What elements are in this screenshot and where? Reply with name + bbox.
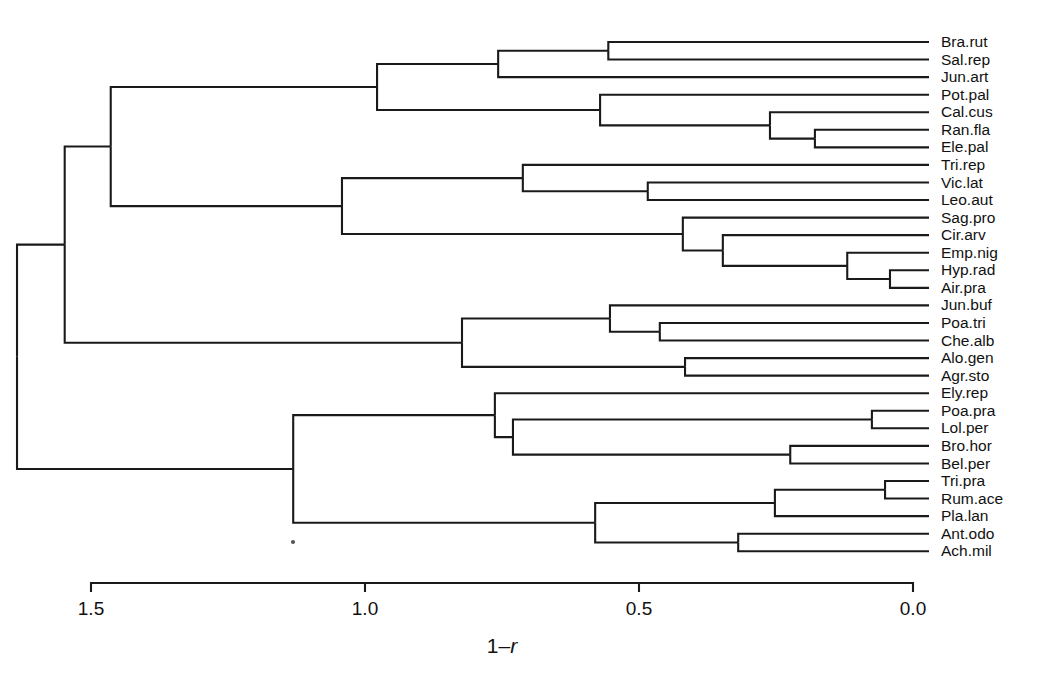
branch-to-node: [775, 490, 885, 503]
branch-to-node: [847, 266, 890, 279]
leaf-label: Ant.odo: [941, 525, 994, 542]
branch-to-leaf: [648, 191, 929, 200]
branch-to-leaf: [498, 64, 929, 77]
leaf-label: Poa.tri: [941, 314, 986, 331]
leaf-label: Vic.lat: [941, 174, 984, 191]
leaf-label-group: Bra.rutSal.repJun.artPot.palCal.cusRan.f…: [941, 33, 1003, 559]
leaf-label: Ele.pal: [941, 138, 988, 155]
leaf-label: Ach.mil: [941, 542, 992, 559]
branch-to-leaf: [770, 112, 929, 125]
branch-to-leaf: [608, 42, 929, 51]
branch-to-node: [462, 343, 685, 367]
leaf-label: Bra.rut: [941, 33, 988, 50]
leaf-label: Leo.aut: [941, 191, 993, 208]
dendrogram-figure: Bra.rutSal.repJun.artPot.palCal.cusRan.f…: [0, 0, 1059, 695]
branch-to-node: [595, 503, 775, 523]
branch-to-node: [342, 178, 523, 206]
branch-to-node: [65, 147, 111, 245]
branch-to-leaf: [608, 51, 929, 60]
branch-to-node: [498, 51, 608, 64]
leaf-label: Jun.buf: [941, 296, 993, 313]
leaf-label: Hyp.rad: [941, 261, 995, 278]
branch-to-leaf: [872, 411, 929, 420]
branch-to-node: [595, 523, 738, 543]
branch-to-node: [600, 110, 770, 125]
leaf-label: Tri.rep: [941, 156, 985, 173]
branch-to-node: [770, 125, 815, 138]
leaf-label: Cir.arv: [941, 226, 986, 243]
branch-to-leaf: [600, 95, 929, 110]
branch-to-leaf: [648, 182, 929, 191]
leaf-label: Alo.gen: [941, 349, 994, 366]
leaf-label: Jun.art: [941, 68, 989, 85]
branch-to-node: [683, 234, 723, 250]
branch-to-leaf: [815, 130, 929, 139]
branch-to-leaf: [683, 218, 929, 234]
branch-to-node: [377, 64, 498, 87]
branch-to-node: [610, 319, 660, 332]
branch-to-node: [523, 178, 648, 191]
branch-to-leaf: [890, 270, 929, 279]
dendrogram-plot: Bra.rutSal.repJun.artPot.palCal.cusRan.f…: [0, 0, 1059, 695]
leaf-label: Air.pra: [941, 279, 986, 296]
axis-title: 1–r: [487, 634, 518, 657]
leaf-label: Pot.pal: [941, 86, 989, 103]
leaf-label: Cal.cus: [941, 103, 993, 120]
branch-to-leaf: [890, 279, 929, 288]
branch-to-node: [111, 147, 342, 207]
branch-to-leaf: [723, 235, 929, 250]
axis-baseline: [91, 583, 913, 592]
branch-to-node: [342, 206, 683, 234]
axis-tick-label: 1.5: [78, 598, 104, 619]
leaf-label: Che.alb: [941, 332, 994, 349]
x-axis: 1.51.00.50.0 1–r: [78, 583, 926, 657]
branch-to-leaf: [685, 358, 929, 367]
axis-tick-label: 0.0: [900, 598, 926, 619]
branch-to-leaf: [495, 393, 929, 415]
branch-to-node: [65, 245, 462, 343]
branch-to-leaf: [847, 253, 929, 266]
axis-ticks: [365, 583, 639, 592]
leaf-label: Tri.pra: [941, 472, 986, 489]
branch-to-node: [513, 420, 872, 438]
branch-to-leaf: [885, 481, 929, 490]
leaf-label: Ely.rep: [941, 384, 988, 401]
leaf-label: Ran.fla: [941, 121, 990, 138]
branch-to-node: [377, 87, 600, 110]
branch-to-leaf: [815, 139, 929, 148]
leaf-label: Sag.pro: [941, 209, 995, 226]
leaf-label: Emp.nig: [941, 244, 998, 261]
branch-to-node: [513, 437, 790, 455]
dendrogram-links: [17, 42, 929, 551]
leaf-label: Poa.pra: [941, 402, 996, 419]
branch-to-node: [293, 469, 595, 523]
leaf-label: Agr.sto: [941, 367, 989, 384]
leaf-label: Lol.per: [941, 419, 988, 436]
leaf-label: Bro.hor: [941, 437, 992, 454]
axis-tick-label: 0.5: [626, 598, 652, 619]
branch-to-node: [723, 251, 847, 266]
branch-to-leaf: [885, 490, 929, 499]
branch-to-leaf: [872, 420, 929, 429]
branch-to-node: [495, 415, 513, 437]
leaf-label: Pla.lan: [941, 507, 988, 524]
branch-to-leaf: [660, 323, 929, 332]
branch-to-leaf: [523, 165, 929, 178]
leaf-label: Sal.rep: [941, 51, 990, 68]
branch-to-leaf: [738, 534, 929, 543]
branch-to-leaf: [660, 332, 929, 341]
branch-to-leaf: [790, 446, 929, 455]
branch-to-leaf: [790, 455, 929, 464]
axis-title-prefix: 1–: [487, 634, 511, 657]
branch-to-leaf: [685, 367, 929, 376]
branch-to-node: [17, 357, 293, 469]
branch-to-node: [462, 319, 610, 343]
branch-to-node: [293, 415, 495, 469]
branch-to-leaf: [738, 542, 929, 551]
branch-to-node: [111, 87, 377, 147]
branch-to-leaf: [610, 305, 929, 318]
axis-tick-labels: 1.51.00.50.0: [78, 598, 926, 619]
branch-to-node: [17, 245, 65, 357]
branch-to-leaf: [775, 503, 929, 516]
axis-title-variable: r: [510, 634, 518, 657]
